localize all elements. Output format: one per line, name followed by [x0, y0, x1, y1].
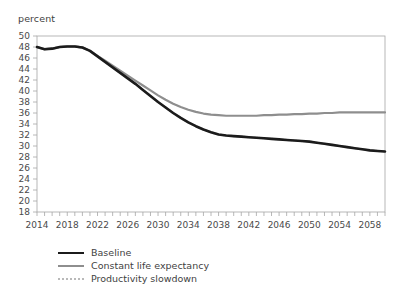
y-tick-label: 44: [19, 64, 31, 74]
x-tick-label: 2018: [56, 220, 79, 230]
y-tick-label: 20: [19, 196, 31, 206]
y-tick-label: 18: [19, 207, 31, 217]
legend-item-constant-life-expectancy: Constant life expectancy: [58, 259, 209, 272]
legend-item-baseline: Baseline: [58, 246, 209, 259]
y-tick-label: 36: [19, 108, 31, 118]
x-tick-label: 2034: [177, 220, 200, 230]
x-tick-label: 2014: [26, 220, 49, 230]
x-tick-label: 2050: [298, 220, 321, 230]
legend-swatch-baseline-icon: [58, 252, 84, 254]
chart-legend: Baseline Constant life expectancy Produc…: [58, 246, 209, 285]
x-tick-label: 2026: [116, 220, 139, 230]
x-tick-label: 2042: [237, 220, 260, 230]
legend-swatch-productivity-slowdown-icon: [58, 278, 84, 280]
legend-item-productivity-slowdown: Productivity slowdown: [58, 272, 209, 285]
x-tick-label: 2038: [207, 220, 230, 230]
legend-label-baseline: Baseline: [91, 246, 131, 259]
y-tick-label: 26: [19, 163, 31, 173]
x-tick-label: 2030: [147, 220, 170, 230]
y-tick-label: 28: [19, 152, 31, 162]
chart-series-group: [37, 46, 385, 151]
series-line-constant-life-expectancy: [37, 46, 385, 115]
legend-label-constant-life-expectancy: Constant life expectancy: [91, 259, 209, 272]
y-tick-label: 48: [19, 42, 31, 52]
series-line-productivity-slowdown: [37, 46, 385, 151]
x-tick-label: 2022: [86, 220, 109, 230]
plot-frame: [37, 36, 385, 212]
y-tick-label: 50: [19, 31, 31, 41]
legend-label-productivity-slowdown: Productivity slowdown: [91, 272, 197, 285]
chart-container: percent 50484644424038363432302826242220…: [0, 0, 414, 293]
y-tick-label: 22: [19, 185, 30, 195]
y-tick-label: 46: [19, 53, 31, 63]
y-tick-label: 40: [19, 86, 31, 96]
x-axis-ticks: 2014201820222026203020342038204220462050…: [26, 212, 385, 230]
y-tick-label: 24: [19, 174, 31, 184]
x-tick-label: 2046: [268, 220, 291, 230]
y-axis-ticks: 5048464442403836343230282624222018: [19, 31, 37, 217]
x-tick-label: 2058: [358, 220, 381, 230]
legend-swatch-constant-life-expectancy-icon: [58, 265, 84, 267]
y-tick-label: 30: [19, 141, 31, 151]
y-tick-label: 42: [19, 75, 30, 85]
y-tick-label: 32: [19, 130, 30, 140]
series-line-baseline: [37, 46, 385, 151]
y-tick-label: 38: [19, 97, 31, 107]
y-tick-label: 34: [19, 119, 31, 129]
x-tick-label: 2054: [328, 220, 351, 230]
